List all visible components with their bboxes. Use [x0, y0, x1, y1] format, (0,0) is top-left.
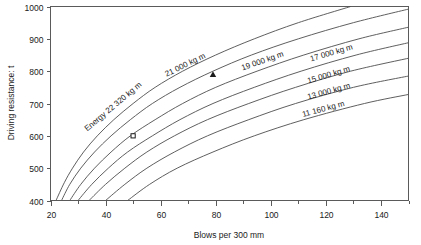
data-markers	[131, 71, 216, 138]
x-axis-ticks	[52, 201, 410, 206]
y-tick-label: 500	[29, 164, 43, 174]
y-tick-label: 700	[29, 100, 43, 110]
y-tick-label: 400	[29, 197, 43, 207]
y-tick-label: 1000	[25, 3, 44, 13]
curve-label-11160: 11 160 kg m	[301, 99, 346, 119]
curve-label-17000: 17 000 kg m	[309, 42, 354, 63]
energy-curve	[56, 7, 351, 201]
x-axis-tick-labels: 20406080100120140	[47, 210, 389, 220]
x-tick-label: 100	[264, 210, 278, 220]
x-tick-label: 40	[102, 210, 112, 220]
x-tick-label: 80	[212, 210, 222, 220]
x-axis-title: Blows per 300 mm	[194, 230, 264, 240]
y-tick-label: 800	[29, 67, 43, 77]
x-tick-label: 20	[47, 210, 57, 220]
curve-label-21000: 21 000 kg m	[163, 51, 207, 79]
driving-resistance-chart: 4005006007008009001000 20406080100120140…	[0, 0, 421, 245]
y-tick-label: 900	[29, 35, 43, 45]
energy-curve	[106, 76, 409, 200]
x-tick-label: 140	[374, 210, 388, 220]
y-axis-ticks	[47, 8, 51, 202]
observation-square	[131, 134, 135, 138]
chart-svg: 4005006007008009001000 20406080100120140…	[0, 0, 421, 245]
x-tick-label: 60	[157, 210, 167, 220]
y-axis-title: Driving resistance: t	[6, 65, 16, 140]
x-tick-label: 120	[319, 210, 333, 220]
y-axis-tick-labels: 4005006007008009001000	[25, 3, 44, 207]
curve-label-22320: Energy 22 320 kg m	[83, 80, 144, 133]
curve-labels: Energy 22 320 kg m21 000 kg m19 000 kg m…	[83, 42, 354, 133]
y-tick-label: 600	[29, 132, 43, 142]
